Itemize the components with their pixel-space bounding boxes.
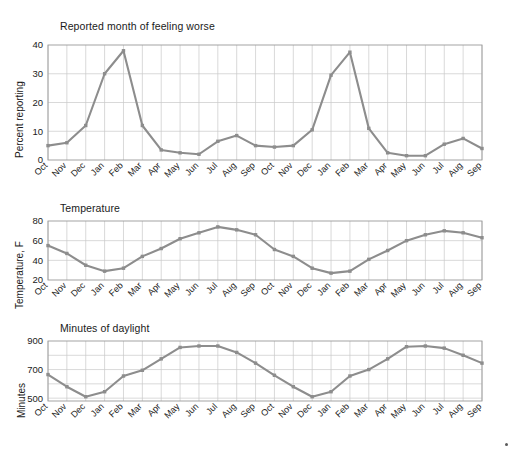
svg-text:Feb: Feb <box>333 401 351 419</box>
svg-text:May: May <box>389 401 408 420</box>
svg-text:Jan: Jan <box>89 160 106 177</box>
svg-text:Feb: Feb <box>333 280 351 298</box>
svg-text:Mar: Mar <box>352 401 370 419</box>
svg-text:Jul: Jul <box>204 401 219 416</box>
svg-text:Mar: Mar <box>126 160 144 178</box>
svg-text:700: 700 <box>27 364 43 375</box>
svg-text:May: May <box>389 280 408 299</box>
svg-text:Aug: Aug <box>446 160 464 178</box>
svg-text:Aug: Aug <box>220 280 238 298</box>
svg-text:Aug: Aug <box>220 401 238 419</box>
svg-text:Feb: Feb <box>107 160 125 178</box>
svg-text:Mar: Mar <box>126 401 144 419</box>
svg-text:60: 60 <box>32 235 43 246</box>
svg-text:Jul: Jul <box>204 160 219 175</box>
svg-text:Nov: Nov <box>50 401 69 420</box>
plot-area-daylight: 500700900OctNovDecJanFebMarAprMayJunJulA… <box>0 318 514 452</box>
svg-text:Mar: Mar <box>352 160 370 178</box>
svg-text:Dec: Dec <box>295 160 314 179</box>
svg-text:Feb: Feb <box>107 401 125 419</box>
svg-text:Nov: Nov <box>50 280 69 299</box>
svg-text:Jan: Jan <box>315 401 332 418</box>
svg-text:Jun: Jun <box>183 280 200 297</box>
svg-text:Jun: Jun <box>183 160 200 177</box>
svg-text:Nov: Nov <box>276 160 295 179</box>
svg-text:Sep: Sep <box>465 160 483 178</box>
svg-text:Dec: Dec <box>69 160 88 179</box>
svg-text:Jan: Jan <box>89 401 106 418</box>
svg-text:Jul: Jul <box>204 280 219 295</box>
svg-text:Dec: Dec <box>295 280 314 299</box>
svg-text:Apr: Apr <box>372 160 389 177</box>
svg-text:Mar: Mar <box>126 280 144 298</box>
svg-text:Jan: Jan <box>315 160 332 177</box>
plot-area-temperature: 20406080OctNovDecJanFebMarAprMayJunJulAu… <box>0 197 514 322</box>
svg-text:10: 10 <box>32 126 43 137</box>
svg-text:20: 20 <box>32 97 43 108</box>
plot-area-reported-month: 010203040OctNovDecJanFebMarAprMayJunJulA… <box>0 0 514 200</box>
svg-text:May: May <box>389 160 408 179</box>
svg-text:Jun: Jun <box>409 280 426 297</box>
svg-text:Feb: Feb <box>107 280 125 298</box>
svg-text:Apr: Apr <box>372 401 389 418</box>
svg-text:Jun: Jun <box>183 401 200 418</box>
svg-text:May: May <box>162 280 181 299</box>
svg-text:Nov: Nov <box>276 280 295 299</box>
svg-text:Dec: Dec <box>69 401 88 420</box>
svg-text:Oct: Oct <box>259 160 276 177</box>
chart-panel-reported-month: Reported month of feeling worse Percent … <box>0 0 514 200</box>
svg-text:Aug: Aug <box>446 280 464 298</box>
svg-text:Apr: Apr <box>146 401 163 418</box>
svg-text:900: 900 <box>27 335 43 346</box>
chart-panel-temperature: Temperature Temperature, F 20406080OctNo… <box>0 197 514 322</box>
svg-text:Jul: Jul <box>430 401 445 416</box>
svg-text:Oct: Oct <box>32 160 49 177</box>
svg-text:Sep: Sep <box>239 160 257 178</box>
svg-text:Jan: Jan <box>89 280 106 297</box>
svg-text:Sep: Sep <box>239 280 257 298</box>
svg-text:Sep: Sep <box>465 401 483 419</box>
svg-text:Oct: Oct <box>259 280 276 297</box>
svg-text:Aug: Aug <box>446 401 464 419</box>
svg-text:Apr: Apr <box>146 280 163 297</box>
svg-text:30: 30 <box>32 68 43 79</box>
svg-text:May: May <box>162 401 181 420</box>
svg-text:Oct: Oct <box>32 401 49 418</box>
svg-text:Dec: Dec <box>69 280 88 299</box>
svg-text:80: 80 <box>32 215 43 226</box>
svg-text:Mar: Mar <box>352 280 370 298</box>
chart-panel-daylight: Minutes of daylight Minutes 500700900Oct… <box>0 318 514 452</box>
figure-container: Reported month of feeling worse Percent … <box>0 0 514 452</box>
svg-text:Sep: Sep <box>239 401 257 419</box>
svg-text:May: May <box>162 160 181 179</box>
svg-text:Jul: Jul <box>430 280 445 295</box>
svg-text:40: 40 <box>32 255 43 266</box>
svg-text:Feb: Feb <box>333 160 351 178</box>
svg-text:Jun: Jun <box>409 160 426 177</box>
svg-text:Jul: Jul <box>430 160 445 175</box>
svg-text:Dec: Dec <box>295 401 314 420</box>
page-corner-mark <box>505 443 508 446</box>
svg-text:40: 40 <box>32 39 43 50</box>
svg-text:Jan: Jan <box>315 280 332 297</box>
svg-text:Nov: Nov <box>50 160 69 179</box>
svg-text:Apr: Apr <box>372 280 389 297</box>
svg-text:Apr: Apr <box>146 160 163 177</box>
svg-text:Nov: Nov <box>276 401 295 420</box>
svg-text:Aug: Aug <box>220 160 238 178</box>
svg-text:Oct: Oct <box>259 401 276 418</box>
svg-text:Jun: Jun <box>409 401 426 418</box>
svg-text:Sep: Sep <box>465 280 483 298</box>
